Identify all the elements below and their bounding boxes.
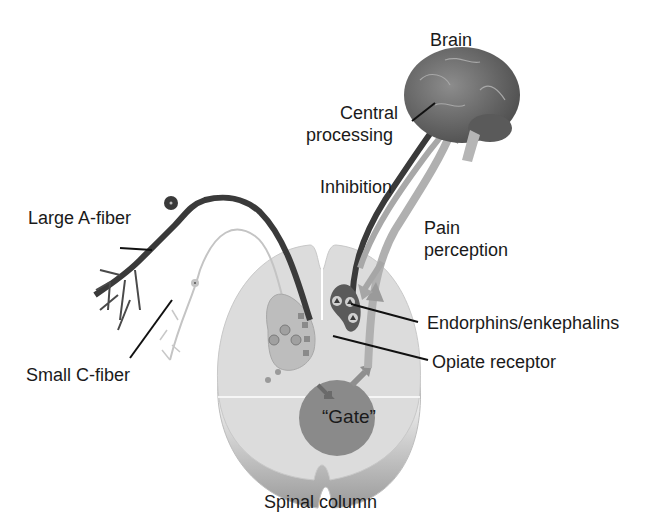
pain-perception-label-line1: Pain — [424, 218, 460, 239]
pain-perception-label-line2: perception — [424, 240, 508, 261]
spinal-cord — [217, 245, 420, 508]
large-a-fiber-label: Large A-fiber — [28, 208, 131, 229]
large-a-fiber-leader-line — [120, 248, 152, 250]
central-processing-label-line2: processing — [306, 125, 393, 146]
gate-control-diagram: Brain Central processing Inhibition Pain… — [0, 0, 659, 528]
endorphins-label: Endorphins/enkephalins — [427, 313, 619, 334]
gate-label: “Gate” — [322, 406, 376, 427]
small-c-fiber-label: Small C-fiber — [26, 365, 130, 386]
small-c-fiber-leader-line — [130, 300, 172, 358]
brain-label: Brain — [430, 30, 472, 51]
inhibition-label: Inhibition — [320, 177, 392, 198]
spinal-column-label: Spinal column — [264, 492, 377, 513]
central-processing-label-line1: Central — [340, 103, 398, 124]
opiate-receptor-label: Opiate receptor — [432, 352, 556, 373]
diagram-artwork — [0, 0, 659, 528]
